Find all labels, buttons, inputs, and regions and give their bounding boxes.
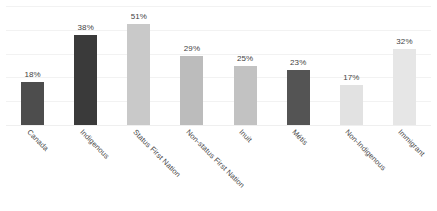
x-axis-label-slot: Non-status First Nation <box>165 127 218 207</box>
bar-group[interactable]: 38% <box>59 6 112 125</box>
bar-rect[interactable] <box>287 70 310 125</box>
bar-value-label: 38% <box>78 23 94 33</box>
bar-rect[interactable] <box>21 82 44 125</box>
bar-rect[interactable] <box>393 49 416 125</box>
bar-group[interactable]: 23% <box>272 6 325 125</box>
bar-rect[interactable] <box>180 56 203 125</box>
x-axis-label-slot: Inuit <box>219 127 272 207</box>
bar-value-label: 25% <box>237 54 253 64</box>
bar-value-label: 23% <box>290 58 306 68</box>
x-axis-label-slot: Indigenous <box>59 127 112 207</box>
bar-group[interactable]: 25% <box>219 6 272 125</box>
x-axis-tick-label: Inuit <box>237 128 254 145</box>
x-axis-label-slot: Non-Indigenous <box>325 127 378 207</box>
x-axis-label-slot: Métis <box>272 127 325 207</box>
bar-value-label: 17% <box>343 73 359 83</box>
bar-rect[interactable] <box>74 35 97 125</box>
bar-rect[interactable] <box>127 24 150 125</box>
x-axis-labels: Canada Indigenous Status First Nation No… <box>6 127 431 207</box>
x-axis-label-slot: Immigrant <box>378 127 431 207</box>
x-axis-tick-label: Immigrant <box>397 128 428 159</box>
bar-value-label: 18% <box>24 70 40 80</box>
x-axis-tick-label: Canada <box>25 128 50 153</box>
bar-value-label: 29% <box>184 44 200 54</box>
bar-group[interactable]: 29% <box>165 6 218 125</box>
x-axis-tick-label: Métis <box>290 128 309 147</box>
bar-group[interactable]: 18% <box>6 6 59 125</box>
bar-rect[interactable] <box>340 85 363 125</box>
bar-chart: 18% 38% 51% 29% 25% 23% 17% 32% <box>0 0 437 211</box>
x-axis-line <box>6 125 431 126</box>
bar-rect[interactable] <box>234 66 257 126</box>
x-axis-label-slot: Status First Nation <box>112 127 165 207</box>
bar-value-label: 51% <box>131 12 147 22</box>
x-axis-tick-label: Indigenous <box>78 128 111 161</box>
x-axis-label-slot: Canada <box>6 127 59 207</box>
bar-group[interactable]: 51% <box>112 6 165 125</box>
bar-series: 18% 38% 51% 29% 25% 23% 17% 32% <box>6 6 431 125</box>
bar-group[interactable]: 17% <box>325 6 378 125</box>
bar-value-label: 32% <box>396 37 412 47</box>
bar-group[interactable]: 32% <box>378 6 431 125</box>
